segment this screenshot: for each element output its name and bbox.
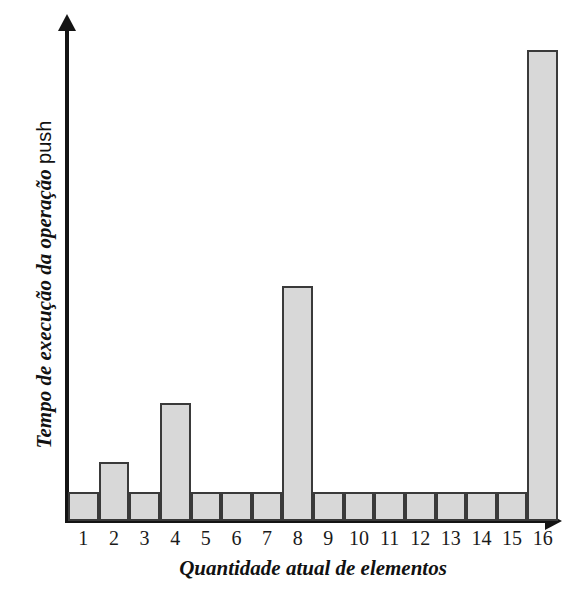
y-axis-title-code-word: push (33, 121, 55, 164)
x-axis-tick-label: 16 (527, 527, 558, 550)
x-axis-tick-label: 15 (497, 527, 528, 550)
bar (466, 492, 497, 521)
x-axis-tick-label: 5 (191, 527, 222, 550)
x-axis-tick-label: 6 (221, 527, 252, 550)
x-axis-tick-label: 13 (436, 527, 467, 550)
bar (527, 50, 558, 521)
y-axis-title-main: Tempo de execução da operação (32, 169, 56, 448)
bar-chart-figure: 12345678910111213141516 Quantidade atual… (0, 0, 571, 602)
bar (405, 492, 436, 521)
x-axis-tick-label: 4 (160, 527, 191, 550)
bar (282, 286, 313, 521)
bar (191, 492, 222, 521)
bar (68, 492, 99, 521)
bar (221, 492, 252, 521)
x-axis-title: Quantidade atual de elementos (68, 556, 558, 581)
bar (344, 492, 375, 521)
x-axis-tick-label: 2 (99, 527, 130, 550)
bar (436, 492, 467, 521)
bar (313, 492, 344, 521)
x-axis-tick-label: 7 (252, 527, 283, 550)
x-axis-tick-label: 14 (466, 527, 497, 550)
x-axis-tick-label: 3 (129, 527, 160, 550)
x-axis-tick-label: 11 (374, 527, 405, 550)
y-axis-title: Tempo de execução da operação push (32, 35, 57, 535)
bar (99, 462, 130, 521)
x-axis-tick-label: 1 (68, 527, 99, 550)
plot-area (68, 18, 558, 521)
x-axis-tick-label: 9 (313, 527, 344, 550)
bar (160, 403, 191, 521)
bar (129, 492, 160, 521)
bar (252, 492, 283, 521)
bar (374, 492, 405, 521)
x-axis-tick-label: 8 (282, 527, 313, 550)
bar (497, 492, 528, 521)
x-axis-tick-label: 10 (344, 527, 375, 550)
x-axis-tick-label: 12 (405, 527, 436, 550)
